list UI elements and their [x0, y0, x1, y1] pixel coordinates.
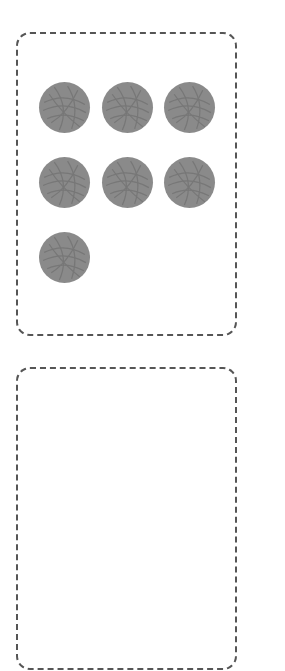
yarn-ball-icon[interactable]	[102, 157, 153, 208]
yarn-ball-icon[interactable]	[102, 82, 153, 133]
target-box[interactable]	[16, 367, 237, 670]
yarn-ball-icon[interactable]	[39, 232, 90, 283]
yarn-ball-icon[interactable]	[164, 157, 215, 208]
yarn-ball-icon[interactable]	[39, 82, 90, 133]
yarn-ball-icon[interactable]	[164, 82, 215, 133]
yarn-ball-icon[interactable]	[39, 157, 90, 208]
